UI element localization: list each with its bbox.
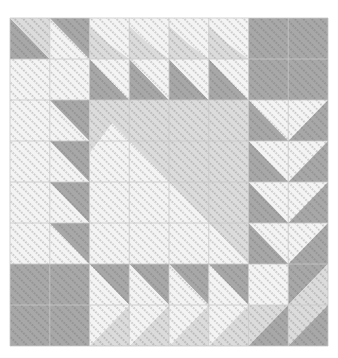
quilt-diagram [0,0,338,358]
